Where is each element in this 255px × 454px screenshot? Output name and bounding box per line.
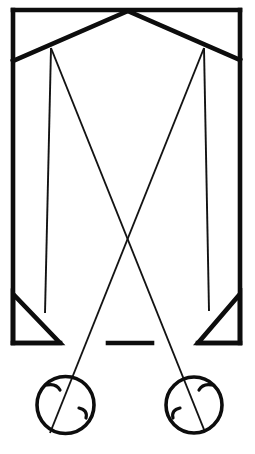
figure-canvas <box>0 0 255 454</box>
technical-diagram-svg <box>0 0 255 454</box>
